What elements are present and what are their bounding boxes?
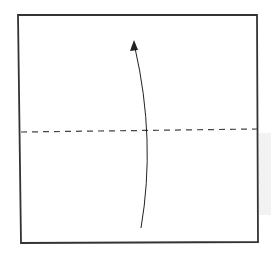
diagram-title: Valley fold: fold bottom edge up to top …: [0, 0, 1, 1]
origami-diagram: [0, 0, 271, 257]
